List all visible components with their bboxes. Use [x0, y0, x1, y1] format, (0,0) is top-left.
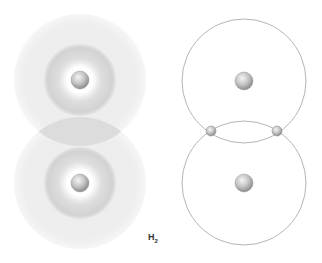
electron-cloud-model	[14, 14, 146, 249]
h2-diagram	[0, 0, 322, 263]
nucleus-icon	[235, 174, 253, 192]
molecule-label: H2	[148, 232, 158, 244]
orbit-model	[182, 19, 306, 245]
nucleus-icon	[71, 71, 89, 89]
electron-icon	[272, 126, 282, 136]
nucleus-icon	[71, 174, 89, 192]
electron-icon	[206, 126, 216, 136]
formula-subscript: 2	[155, 238, 158, 244]
nucleus-icon	[235, 72, 253, 90]
